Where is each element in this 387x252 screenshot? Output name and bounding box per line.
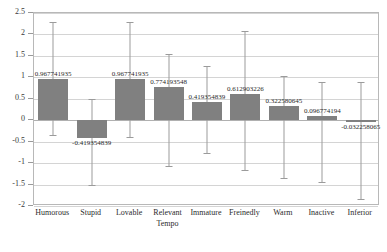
- bar-value-label: 0.967741935: [112, 70, 149, 78]
- error-bar-cap-top: [280, 76, 287, 77]
- bar[interactable]: [307, 116, 337, 120]
- bar-value-label: 0.612903226: [227, 85, 264, 93]
- bar[interactable]: [192, 102, 222, 120]
- y-tick-label: -0.5: [0, 136, 25, 145]
- y-tick-label: 2: [0, 28, 25, 37]
- bar-group: 0.612903226: [226, 13, 264, 204]
- y-tick-label: 1.5: [0, 50, 25, 59]
- x-tick-label: Freinedly: [225, 208, 263, 217]
- error-bar-cap-bottom: [127, 137, 134, 138]
- error-bar-cap-bottom: [319, 182, 326, 183]
- error-bar-cap-bottom: [50, 135, 57, 136]
- bar-value-label: 0.967741935: [35, 70, 72, 78]
- bar-group: 0.096774194: [303, 13, 341, 204]
- x-tick-label: Inferior: [341, 208, 379, 217]
- error-bar: [360, 82, 361, 198]
- error-bar-cap-top: [50, 22, 57, 23]
- bar-group: 0.322580645: [265, 13, 303, 204]
- bar-value-label: 0.322580645: [266, 97, 303, 105]
- error-bar-cap-bottom: [88, 185, 95, 186]
- y-tick-label: 1: [0, 71, 25, 80]
- error-bar: [283, 76, 284, 178]
- bar[interactable]: [346, 120, 376, 121]
- error-bar-cap-top: [127, 22, 134, 23]
- bar[interactable]: [154, 87, 184, 120]
- y-tick-label: 2.5: [0, 7, 25, 16]
- x-tick-label: Stupid: [71, 208, 109, 217]
- bar-value-label: -0.419354839: [72, 139, 111, 147]
- error-bar-cap-top: [357, 82, 364, 83]
- bar-value-label: 0.096774194: [304, 107, 341, 115]
- error-bar-cap-top: [319, 82, 326, 83]
- gridline: [34, 206, 378, 207]
- bar-group: 0.419354839: [188, 13, 226, 204]
- bar[interactable]: [269, 106, 299, 120]
- error-bar-cap-bottom: [165, 166, 172, 167]
- bar-group: -0.032258065: [342, 13, 380, 204]
- error-bar-cap-top: [203, 66, 210, 67]
- error-bar-cap-top: [88, 99, 95, 100]
- y-tick-label: -1: [0, 157, 25, 166]
- bar[interactable]: [115, 79, 145, 121]
- y-tick-label: 0.5: [0, 93, 25, 102]
- bar-group: 0.967741935: [111, 13, 149, 204]
- bar-group: 0.967741935: [34, 13, 72, 204]
- bar[interactable]: [230, 94, 260, 120]
- error-bar-cap-bottom: [242, 170, 249, 171]
- error-bar-cap-bottom: [357, 199, 364, 200]
- error-bar-cap-top: [165, 54, 172, 55]
- x-tick-label: Lovable: [110, 208, 148, 217]
- bar-group: 0.774193548: [149, 13, 187, 204]
- error-bar-cap-top: [242, 31, 249, 32]
- y-tick-mark: [28, 205, 33, 206]
- bar[interactable]: [77, 120, 107, 138]
- bar-chart: 2.521.510.50-0.5-1-1.5-2 0.967741935-0.4…: [0, 0, 387, 252]
- x-tick-label: Warm: [264, 208, 302, 217]
- bar-group: -0.419354839: [72, 13, 110, 204]
- y-tick-label: 0: [0, 114, 25, 123]
- x-tick-label: Relevant: [148, 208, 186, 217]
- bar-value-label: -0.032258065: [341, 123, 380, 131]
- x-tick-label: Immature: [187, 208, 225, 217]
- bar-value-label: 0.774193548: [150, 78, 187, 86]
- plot-area: 0.967741935-0.4193548390.9677419350.7741…: [33, 12, 379, 205]
- bar[interactable]: [38, 79, 68, 121]
- y-tick-label: -1.5: [0, 179, 25, 188]
- x-tick-label: Humorous: [33, 208, 71, 217]
- error-bar-cap-bottom: [280, 178, 287, 179]
- error-bar: [322, 82, 323, 183]
- error-bar-cap-bottom: [203, 153, 210, 154]
- x-tick-label: Inactive: [302, 208, 340, 217]
- bar-value-label: 0.419354839: [189, 93, 226, 101]
- y-tick-label: -2: [0, 200, 25, 209]
- x-axis-title: Tempo: [148, 219, 186, 228]
